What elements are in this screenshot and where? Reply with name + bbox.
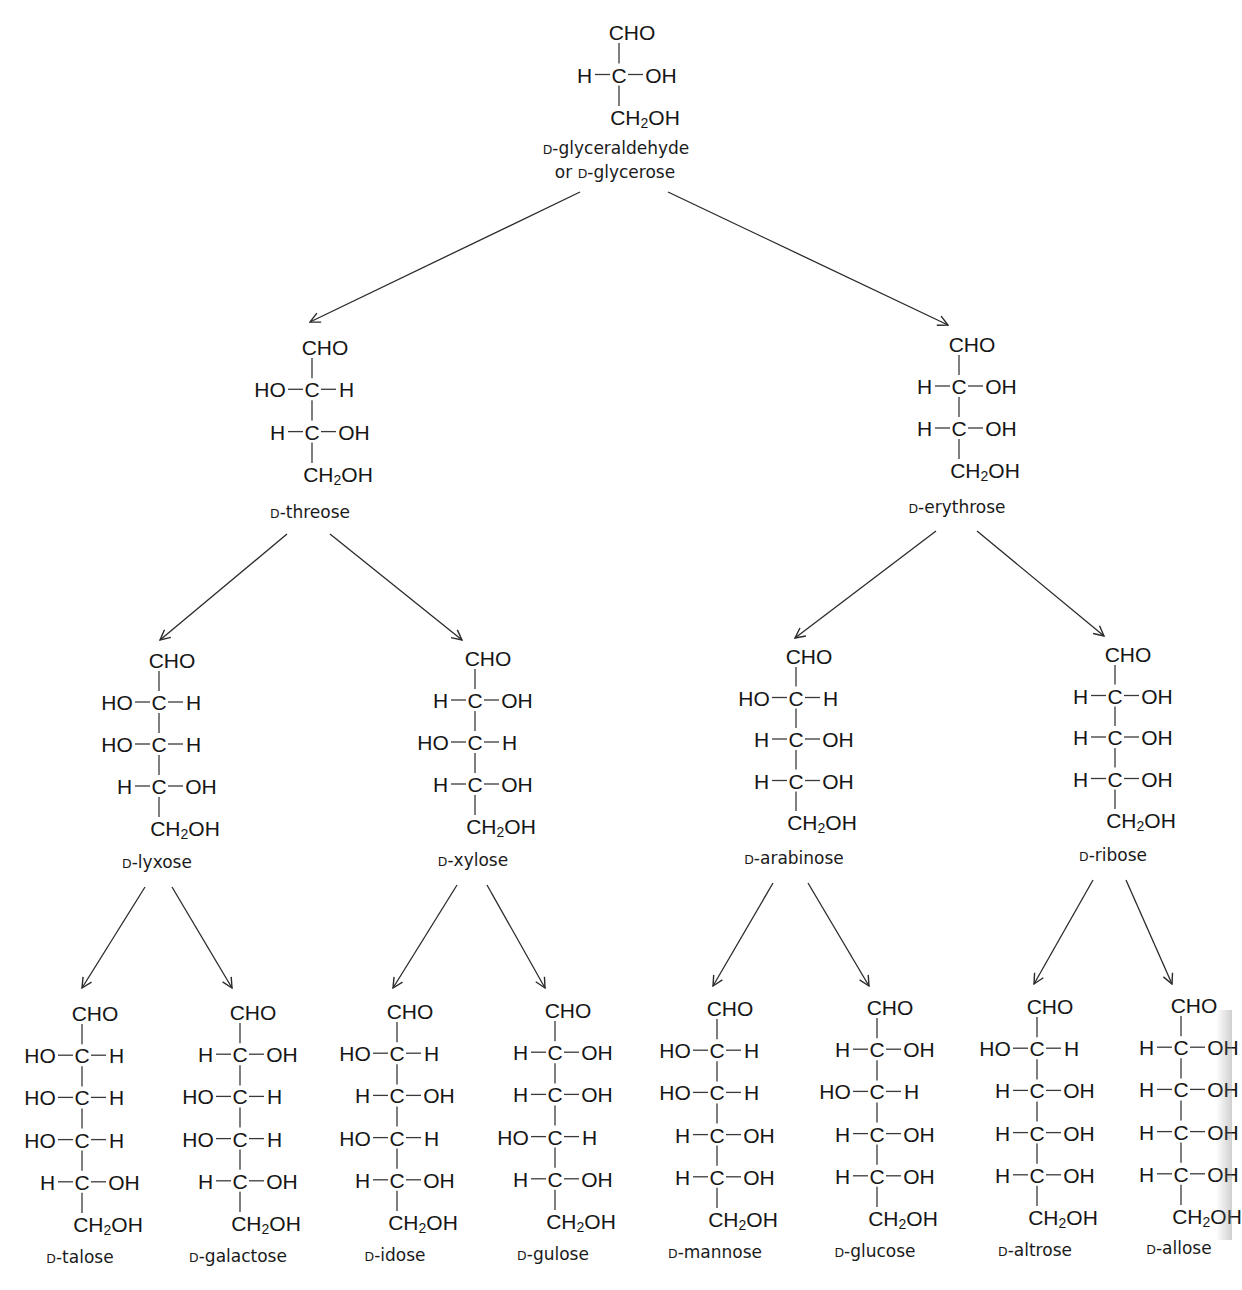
- stereocenter-carbon: C: [1173, 1079, 1188, 1100]
- right-substituent-h: H: [424, 1043, 439, 1064]
- ch2oh-group: CH2OH: [73, 1214, 143, 1235]
- left-substituent-h: H: [754, 770, 769, 791]
- stereocenter-carbon: C: [389, 1085, 404, 1106]
- arrow-xylose-to-idose: [393, 885, 457, 988]
- left-substituent-ho: HO: [659, 1040, 691, 1061]
- left-substituent-ho: HO: [339, 1043, 371, 1064]
- stereocenter-carbon: C: [151, 734, 166, 755]
- ch2oh-group: CH2OH: [303, 463, 373, 484]
- cho-group: CHO: [1027, 996, 1074, 1017]
- right-substituent-oh: OH: [108, 1171, 140, 1192]
- right-substituent-oh: OH: [1063, 1080, 1095, 1101]
- stereocenter-carbon: C: [788, 729, 803, 750]
- left-substituent-h: H: [1139, 1037, 1154, 1058]
- ch2oh-group: CH2OH: [231, 1213, 301, 1234]
- right-substituent-oh: OH: [581, 1042, 613, 1063]
- left-substituent-h: H: [513, 1042, 528, 1063]
- left-substituent-h: H: [40, 1171, 55, 1192]
- left-substituent-ho: HO: [254, 379, 286, 400]
- stereocenter-carbon: C: [547, 1168, 562, 1189]
- stereocenter-carbon: C: [74, 1171, 89, 1192]
- right-substituent-oh: OH: [985, 376, 1017, 397]
- label-or-d-glycerose: or D-glycerose: [555, 162, 675, 184]
- stereocenter-carbon: C: [467, 690, 482, 711]
- stereocenter-carbon: C: [1107, 727, 1122, 748]
- left-substituent-h: H: [355, 1085, 370, 1106]
- stereocenter-carbon: C: [74, 1129, 89, 1150]
- right-substituent-oh: OH: [903, 1039, 935, 1060]
- ch2oh-group: CH2OH: [787, 812, 857, 833]
- left-substituent-h: H: [675, 1166, 690, 1187]
- label-d-mannose: D-mannose: [668, 1242, 762, 1264]
- stereocenter-carbon: C: [547, 1126, 562, 1147]
- stereocenter-carbon: C: [1029, 1164, 1044, 1185]
- cho-group: CHO: [1171, 995, 1218, 1016]
- right-substituent-h: H: [267, 1086, 282, 1107]
- cho-group: CHO: [230, 1002, 277, 1023]
- left-substituent-h: H: [1073, 768, 1088, 789]
- left-substituent-h: H: [198, 1044, 213, 1065]
- label-d-idose: D-idose: [364, 1245, 425, 1267]
- left-substituent-h: H: [198, 1170, 213, 1191]
- arrow-threose-to-xylose: [330, 534, 462, 640]
- right-substituent-oh: OH: [743, 1124, 775, 1145]
- ch2oh-group: CH2OH: [1028, 1207, 1098, 1228]
- right-substituent-h: H: [339, 379, 354, 400]
- right-substituent-oh: OH: [423, 1169, 455, 1190]
- arrow-xylose-to-gulose: [487, 885, 545, 988]
- arrow-glyceraldehyde-to-threose: [310, 192, 580, 322]
- stereocenter-carbon: C: [869, 1165, 884, 1186]
- stereocenter-carbon: C: [232, 1086, 247, 1107]
- right-substituent-oh: OH: [423, 1085, 455, 1106]
- cho-group: CHO: [1105, 644, 1152, 665]
- right-substituent-h: H: [109, 1129, 124, 1150]
- right-substituent-oh: OH: [501, 774, 533, 795]
- left-substituent-h: H: [433, 774, 448, 795]
- left-substituent-ho: HO: [182, 1128, 214, 1149]
- label-d-ribose: D-ribose: [1079, 845, 1147, 867]
- right-substituent-oh: OH: [1141, 768, 1173, 789]
- arrow-erythrose-to-ribose: [977, 531, 1104, 636]
- cho-group: CHO: [867, 997, 914, 1018]
- right-substituent-oh: OH: [822, 770, 854, 791]
- stereocenter-carbon: C: [304, 421, 319, 442]
- right-substituent-oh: OH: [581, 1168, 613, 1189]
- right-substituent-h: H: [744, 1082, 759, 1103]
- ch2oh-group: CH2OH: [1106, 810, 1176, 831]
- left-substituent-h: H: [754, 729, 769, 750]
- stereocenter-carbon: C: [151, 776, 166, 797]
- stereocenter-carbon: C: [709, 1082, 724, 1103]
- label-d-threose: D-threose: [270, 502, 350, 524]
- left-substituent-ho: HO: [182, 1086, 214, 1107]
- stereocenter-carbon: C: [1107, 685, 1122, 706]
- stereocenter-carbon: C: [869, 1123, 884, 1144]
- right-substituent-oh: OH: [903, 1123, 935, 1144]
- right-substituent-h: H: [1064, 1038, 1079, 1059]
- stereocenter-carbon: C: [1173, 1163, 1188, 1184]
- stereocenter-carbon: C: [547, 1042, 562, 1063]
- left-substituent-h: H: [355, 1169, 370, 1190]
- ch2oh-group: CH2OH: [610, 107, 680, 128]
- left-substituent-ho: HO: [339, 1127, 371, 1148]
- left-substituent-h: H: [917, 376, 932, 397]
- stereocenter-carbon: C: [389, 1169, 404, 1190]
- ch2oh-group: CH2OH: [388, 1212, 458, 1233]
- right-substituent-oh: OH: [266, 1170, 298, 1191]
- ch2oh-group: CH2OH: [466, 816, 536, 837]
- right-substituent-h: H: [744, 1040, 759, 1061]
- page-edge-shadow: [1216, 1010, 1232, 1240]
- left-substituent-h: H: [577, 64, 592, 85]
- cho-group: CHO: [387, 1001, 434, 1022]
- cho-group: CHO: [465, 648, 512, 669]
- right-substituent-h: H: [823, 687, 838, 708]
- left-substituent-h: H: [1139, 1163, 1154, 1184]
- cho-group: CHO: [149, 650, 196, 671]
- right-substituent-oh: OH: [1141, 685, 1173, 706]
- right-substituent-oh: OH: [185, 776, 217, 797]
- right-substituent-h: H: [904, 1081, 919, 1102]
- stereocenter-carbon: C: [547, 1084, 562, 1105]
- cho-group: CHO: [72, 1003, 119, 1024]
- stereocenter-carbon: C: [788, 687, 803, 708]
- right-substituent-oh: OH: [743, 1166, 775, 1187]
